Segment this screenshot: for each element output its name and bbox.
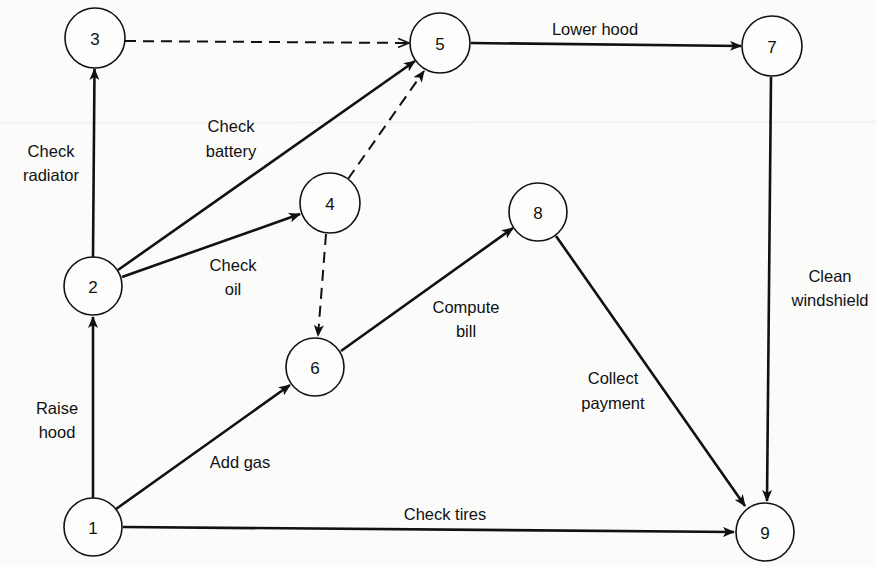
node-8: 8 bbox=[509, 183, 567, 241]
label-clean-windshield: Clean bbox=[808, 267, 851, 285]
label-compute-bill: Compute bbox=[433, 298, 500, 316]
node-6: 6 bbox=[286, 338, 344, 396]
edge-4-6-dummy bbox=[318, 234, 326, 336]
network-diagram: Raise hood Check radiator Check battery … bbox=[0, 0, 876, 566]
label-check-battery: Check bbox=[208, 117, 256, 135]
label-collect-payment-2: payment bbox=[581, 394, 645, 412]
svg-text:8: 8 bbox=[533, 204, 542, 223]
edge-1-6-add-gas bbox=[116, 385, 290, 509]
node-3: 3 bbox=[65, 8, 125, 68]
svg-text:4: 4 bbox=[325, 195, 334, 214]
label-check-radiator: Check bbox=[28, 142, 76, 160]
label-clean-windshield-2: windshield bbox=[790, 291, 868, 309]
edge-6-8-compute-bill bbox=[341, 228, 513, 351]
svg-text:2: 2 bbox=[88, 278, 97, 297]
edge-4-5-dummy bbox=[348, 71, 424, 179]
label-add-gas: Add gas bbox=[210, 453, 271, 471]
edge-2-3-check-radiator bbox=[93, 69, 95, 257]
edge-1-9-check-tires bbox=[123, 527, 734, 532]
svg-text:7: 7 bbox=[767, 38, 776, 57]
svg-text:5: 5 bbox=[435, 35, 444, 54]
label-raise-hood-2: hood bbox=[39, 423, 76, 441]
label-check-radiator-2: radiator bbox=[23, 166, 79, 184]
edge-labels: Raise hood Check radiator Check battery … bbox=[23, 20, 869, 523]
node-5: 5 bbox=[410, 13, 470, 73]
edges bbox=[93, 41, 771, 532]
label-collect-payment: Collect bbox=[588, 369, 639, 387]
edge-3-5-dummy bbox=[125, 41, 409, 43]
edge-7-9-clean-windshield bbox=[767, 77, 771, 501]
svg-text:6: 6 bbox=[310, 359, 319, 378]
label-check-oil: Check bbox=[210, 256, 258, 274]
svg-text:3: 3 bbox=[90, 30, 99, 49]
node-1: 1 bbox=[64, 498, 122, 556]
edge-8-9-collect-payment bbox=[556, 236, 745, 506]
scan-seam bbox=[0, 122, 876, 123]
edge-5-7-lower-hood bbox=[471, 43, 741, 46]
node-7: 7 bbox=[742, 16, 802, 76]
edge-2-5-check-battery bbox=[118, 61, 415, 270]
svg-text:1: 1 bbox=[88, 519, 97, 538]
node-2: 2 bbox=[64, 257, 122, 315]
label-check-oil-2: oil bbox=[225, 280, 242, 298]
node-9: 9 bbox=[736, 503, 794, 561]
label-compute-bill-2: bill bbox=[456, 322, 476, 340]
svg-text:9: 9 bbox=[760, 524, 769, 543]
label-check-battery-2: battery bbox=[206, 142, 257, 160]
node-4: 4 bbox=[300, 173, 360, 233]
label-check-tires: Check tires bbox=[404, 505, 487, 523]
label-lower-hood: Lower hood bbox=[552, 20, 638, 38]
label-raise-hood: Raise bbox=[36, 399, 78, 417]
